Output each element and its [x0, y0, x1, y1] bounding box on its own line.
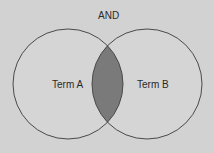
venn-diagram: AND Term A Term B [0, 0, 214, 153]
set-a-label: Term A [52, 80, 83, 90]
set-b-label: Term B [137, 80, 169, 90]
venn-graphic [0, 0, 214, 153]
diagram-title: AND [98, 11, 119, 21]
